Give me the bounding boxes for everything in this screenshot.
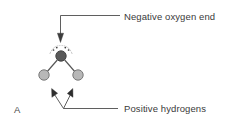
panel-letter-label: A [14,104,20,115]
callout-arrow-positive-hydrogens-head-left [52,89,58,98]
callout-arrow-negative-oxygen-end-line [61,16,121,35]
hydrogen-atom-right [73,70,83,80]
callout-label-positive-hydrogens: Positive hydrogens [124,103,206,114]
molecule-bonds [47,60,74,72]
lone-pair-left-dot-2 [56,47,58,49]
molecule-atoms [39,51,83,80]
callout-arrow-positive-hydrogens [52,89,118,109]
lone-pair-right-dot-1 [64,47,66,49]
figure-canvas: Negative oxygen end Positive hydrogens A [0,0,231,131]
lone-pair-right-dot-2 [68,49,70,51]
callout-arrow-positive-hydrogens-branch-left [55,95,64,109]
callout-arrow-positive-hydrogens-branch-right [64,95,71,109]
bond-o-h-right [65,60,75,72]
oxygen-atom [56,51,66,61]
callout-arrow-negative-oxygen-end [57,16,120,43]
callout-arrow-negative-oxygen-end-head [57,33,63,42]
lone-pair-left-dot-1 [53,49,55,51]
hydrogen-atom-left [39,70,49,80]
bond-o-h-left [47,60,57,72]
callout-label-negative-oxygen-end: Negative oxygen end [124,11,215,22]
